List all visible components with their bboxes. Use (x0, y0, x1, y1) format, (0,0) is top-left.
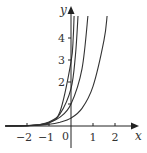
y-tick-label: 4 (58, 32, 65, 45)
curve-3 (5, 16, 88, 126)
y-axis-arrow-icon (68, 6, 75, 14)
ticks: −2−112234 (16, 32, 119, 144)
y-tick-label: 3 (58, 54, 65, 67)
x-tick-label: −1 (38, 131, 54, 144)
curves (5, 16, 107, 126)
curve-2 (5, 16, 78, 126)
axes (6, 6, 139, 148)
exponential-curves-chart: −2−112234 x y 0 (0, 0, 147, 153)
x-tick-label: 2 (112, 131, 119, 144)
y-tick-label: 2 (58, 76, 65, 89)
x-tick-label: −2 (16, 131, 32, 144)
x-axis-label: x (135, 129, 142, 143)
x-tick-label: 1 (90, 131, 97, 144)
origin-label: 0 (62, 130, 69, 143)
y-axis-label: y (59, 3, 67, 17)
curve-4 (5, 16, 107, 126)
